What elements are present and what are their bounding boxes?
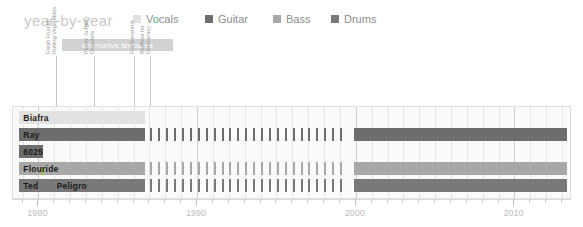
dash-tick xyxy=(182,128,184,141)
dash-tick xyxy=(158,128,160,141)
dash-tick xyxy=(332,162,334,175)
dash-tick xyxy=(269,179,271,192)
axis-tick-minor xyxy=(418,199,419,203)
axis-tick-minor xyxy=(387,199,388,203)
row-label-ray: Ray xyxy=(23,131,39,140)
album-band-label: alternative tentacles xyxy=(62,39,173,51)
legend-item-bass[interactable]: Bass xyxy=(273,13,310,25)
axis-tick-minor xyxy=(22,199,23,203)
dash-tick xyxy=(190,162,192,175)
dash-tick xyxy=(301,128,303,141)
axis-tick-label: 1980 xyxy=(27,208,47,218)
dash-tick xyxy=(245,162,247,175)
row-label-peligro: Peligro xyxy=(57,182,87,191)
dash-tick xyxy=(316,128,318,141)
dash-tick xyxy=(214,162,216,175)
dash-tick xyxy=(285,128,287,141)
dash-tick xyxy=(269,128,271,141)
axis-tick-label: 2010 xyxy=(503,208,523,218)
dash-tick xyxy=(222,128,224,141)
dash-tick xyxy=(253,128,255,141)
dash-tick xyxy=(222,162,224,175)
annotation-label: Plastic SurgeryDisasters xyxy=(83,16,95,54)
dash-tick xyxy=(285,162,287,175)
axis-tick-minor xyxy=(117,199,118,203)
dash-tick xyxy=(301,179,303,192)
legend-item-drums[interactable]: Drums xyxy=(331,13,376,25)
dash-tick xyxy=(174,162,176,175)
axis-tick-minor xyxy=(498,199,499,203)
dash-tick xyxy=(229,179,231,192)
axis-tick-minor xyxy=(148,199,149,203)
page-title: year-by-year xyxy=(24,12,113,29)
axis-tick-major xyxy=(196,199,197,206)
legend-label: Guitar xyxy=(218,13,248,25)
dash-tick xyxy=(198,128,200,141)
dash-tick xyxy=(214,128,216,141)
dash-tick xyxy=(237,179,239,192)
annotation-line: Frankenchrist xyxy=(129,20,135,54)
dash-tick xyxy=(316,179,318,192)
dash-tick xyxy=(166,179,168,192)
axis-tick-minor xyxy=(434,199,435,203)
dash-tick xyxy=(324,162,326,175)
bar-segment-ray[interactable] xyxy=(354,128,567,141)
dash-tick xyxy=(237,128,239,141)
axis-tick-minor xyxy=(291,199,292,203)
dash-tick xyxy=(245,179,247,192)
axis-tick-minor xyxy=(482,199,483,203)
dash-tick xyxy=(198,179,200,192)
axis-tick-minor xyxy=(529,199,530,203)
dash-tick xyxy=(316,162,318,175)
dash-tick xyxy=(308,128,310,141)
dash-tick xyxy=(261,128,263,141)
dash-tick xyxy=(214,179,216,192)
dash-tick xyxy=(340,162,342,175)
legend-item-guitar[interactable]: Guitar xyxy=(205,13,248,25)
axis-tick-label: 2000 xyxy=(345,208,365,218)
axis-tick-minor xyxy=(85,199,86,203)
dash-tick xyxy=(174,179,176,192)
dash-tick xyxy=(308,179,310,192)
dash-tick xyxy=(150,179,152,192)
dash-tick xyxy=(253,179,255,192)
axis-tick-label: 1990 xyxy=(186,208,206,218)
axis-tick-minor xyxy=(545,199,546,203)
annotation-label: Frankenchrist xyxy=(129,20,135,54)
dash-tick xyxy=(285,179,287,192)
dash-tick xyxy=(245,128,247,141)
legend-item-vocals[interactable]: Vocals xyxy=(133,13,178,25)
dash-tick xyxy=(190,179,192,192)
dash-tick xyxy=(229,128,231,141)
row-label-ted: Ted xyxy=(23,182,38,191)
dash-tick xyxy=(293,128,295,141)
dash-tick xyxy=(190,128,192,141)
axis-tick-major xyxy=(37,199,38,206)
dash-tick xyxy=(277,128,279,141)
dash-tick xyxy=(150,162,152,175)
dash-tick xyxy=(261,162,263,175)
dash-tick xyxy=(158,162,160,175)
dash-tick xyxy=(301,162,303,175)
dash-tick xyxy=(293,179,295,192)
legend-swatch-icon xyxy=(205,15,213,23)
dashed-segment-ray xyxy=(149,128,346,141)
dash-tick xyxy=(206,128,208,141)
axis-tick-minor xyxy=(212,199,213,203)
dash-tick xyxy=(332,128,334,141)
dash-tick xyxy=(324,128,326,141)
axis-tick-minor xyxy=(466,199,467,203)
axis-tick-minor xyxy=(307,199,308,203)
dash-tick xyxy=(229,162,231,175)
bar-segment-peligro[interactable] xyxy=(354,179,567,192)
annotation-leader-line xyxy=(134,56,135,108)
axis-tick-minor xyxy=(260,199,261,203)
axis-tick-minor xyxy=(339,199,340,203)
bar-segment-flouride[interactable] xyxy=(354,162,567,175)
dash-tick xyxy=(222,179,224,192)
dash-tick xyxy=(269,162,271,175)
dash-tick xyxy=(206,179,208,192)
annotation-label: Bedtime forDemocracy xyxy=(139,25,151,54)
axis-tick-minor xyxy=(323,199,324,203)
dashed-segment-flouride xyxy=(149,162,346,175)
